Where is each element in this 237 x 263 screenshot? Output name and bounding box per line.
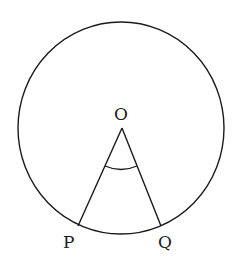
label-o: O bbox=[114, 104, 128, 124]
diagram-canvas: O P Q bbox=[0, 0, 237, 263]
circle-diagram: O P Q bbox=[0, 0, 237, 263]
angle-arc bbox=[105, 166, 137, 170]
radius-op bbox=[78, 128, 122, 226]
circle bbox=[18, 22, 224, 234]
label-p: P bbox=[63, 232, 74, 252]
radius-oq bbox=[122, 128, 161, 226]
label-q: Q bbox=[158, 232, 172, 252]
